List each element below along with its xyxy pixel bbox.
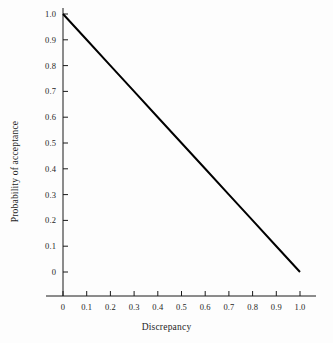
x-axis-ticks <box>63 291 300 296</box>
x-tick-label: 0.6 <box>200 303 211 312</box>
x-axis-title: Discrepancy <box>0 322 333 332</box>
x-tick-label: 1.0 <box>295 303 306 312</box>
x-tick-label: 0.4 <box>152 303 163 312</box>
x-tick-label: 0.9 <box>271 303 282 312</box>
y-axis-title: Probability of acceptance <box>8 0 22 343</box>
y-axis-ticks <box>63 14 68 272</box>
axis-lines <box>46 8 316 296</box>
x-tick-label: 0.8 <box>247 303 258 312</box>
x-tick-label: 0.1 <box>81 303 92 312</box>
x-tick-label: 0.3 <box>129 303 140 312</box>
chart-figure: 00.10.20.30.40.50.60.70.80.91.0 00.10.20… <box>0 0 333 343</box>
x-tick-label: 0.2 <box>105 303 116 312</box>
x-tick-label: 0.5 <box>176 303 187 312</box>
data-line-acceptance <box>63 14 300 272</box>
x-tick-label: 0.7 <box>223 303 234 312</box>
x-tick-label: 0 <box>61 303 65 312</box>
data-series-group <box>63 14 300 272</box>
